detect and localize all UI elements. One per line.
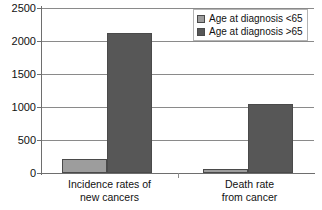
y-tick-label: 2000 bbox=[12, 36, 36, 47]
y-tick-label: 0 bbox=[30, 168, 36, 179]
category-label-line2: from cancer bbox=[182, 191, 317, 204]
category-label-line1: Death rate bbox=[225, 178, 274, 190]
bar-death-over65[interactable] bbox=[248, 104, 293, 173]
category-separator-tick bbox=[178, 173, 179, 178]
y-tick-label: 2500 bbox=[12, 3, 36, 14]
legend-item-over65[interactable]: Age at diagnosis >65 bbox=[197, 25, 303, 38]
x-category-label-death: Death rate from cancer bbox=[182, 178, 317, 203]
legend-label: Age at diagnosis <65 bbox=[209, 13, 303, 24]
bar-chart: 2500 2000 1500 1000 500 0 Incidence rate… bbox=[0, 0, 322, 210]
bar-death-under65[interactable] bbox=[203, 169, 248, 173]
category-label-line1: Incidence rates of bbox=[68, 178, 151, 190]
category-label-line2: new cancers bbox=[42, 191, 177, 204]
legend-item-under65[interactable]: Age at diagnosis <65 bbox=[197, 12, 303, 25]
legend-swatch-icon bbox=[197, 15, 205, 23]
bar-incidence-over65[interactable] bbox=[107, 33, 152, 173]
gridline bbox=[42, 41, 314, 42]
gridline bbox=[42, 74, 314, 75]
bar-incidence-under65[interactable] bbox=[62, 159, 107, 173]
x-category-label-incidence: Incidence rates of new cancers bbox=[42, 178, 177, 203]
legend-swatch-icon bbox=[197, 28, 205, 36]
y-tick-label: 500 bbox=[18, 135, 36, 146]
y-tick-label: 1000 bbox=[12, 102, 36, 113]
y-tick-label: 1500 bbox=[12, 69, 36, 80]
legend-label: Age at diagnosis >65 bbox=[209, 26, 303, 37]
chart-legend: Age at diagnosis <65 Age at diagnosis >6… bbox=[193, 9, 308, 41]
